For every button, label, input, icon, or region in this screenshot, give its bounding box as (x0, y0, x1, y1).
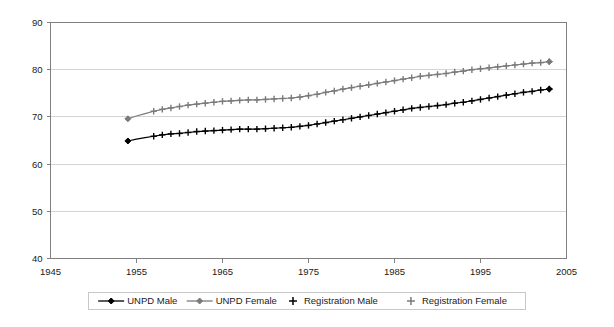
y-tick-label-60: 60 (32, 159, 43, 170)
legend-item-label: UNPD Male (127, 295, 177, 306)
legend-item-label: Registration Female (422, 295, 507, 306)
y-tick-label-50: 50 (32, 206, 43, 217)
x-tick-label-1965: 1965 (212, 266, 233, 277)
x-tick-label-1955: 1955 (126, 266, 147, 277)
x-tick-label-2005: 2005 (556, 266, 577, 277)
x-tick-label-1975: 1975 (298, 266, 319, 277)
y-tick-label-70: 70 (32, 111, 43, 122)
legend-item-label: UNPD Female (216, 295, 277, 306)
plot-background (0, 0, 614, 327)
x-tick-label-1985: 1985 (384, 266, 405, 277)
y-tick-label-90: 90 (32, 17, 43, 28)
chart-legend: UNPD MaleUNPD FemaleRegistration MaleReg… (88, 293, 526, 310)
x-tick-label-1945: 1945 (40, 266, 61, 277)
x-tick-label-1995: 1995 (470, 266, 491, 277)
chart-svg: 405060708090 194519551965197519851995200… (0, 0, 614, 327)
legend-item-label: Registration Male (304, 295, 378, 306)
y-tick-label-40: 40 (32, 253, 43, 264)
legend-item-registration-female[interactable]: Registration Female (407, 295, 507, 306)
y-tick-label-80: 80 (32, 64, 43, 75)
life-expectancy-chart: 405060708090 194519551965197519851995200… (0, 0, 614, 327)
